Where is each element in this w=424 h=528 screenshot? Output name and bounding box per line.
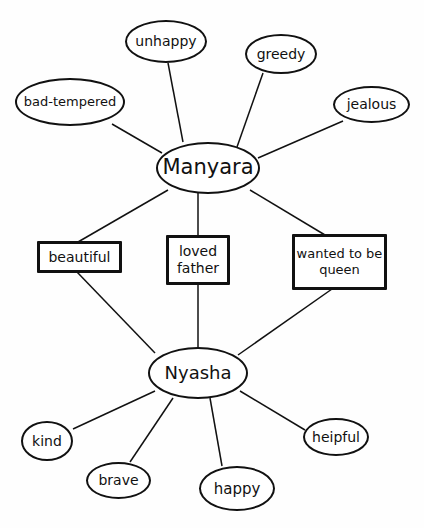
shared-node-beautiful: beautiful [37, 241, 122, 273]
trait-node-heipful: heipful [303, 418, 369, 456]
center-node-manyara: Manyara [156, 142, 260, 194]
double-bubble-map: Manyara Nyasha unhappy greedy bad-temper… [0, 0, 424, 528]
trait-node-brave: brave [86, 462, 151, 499]
trait-node-greedy: greedy [245, 34, 317, 74]
trait-node-jealous: jealous [333, 86, 410, 123]
trait-node-happy: happy [199, 466, 275, 511]
trait-node-bad-tempered: bad-tempered [15, 78, 125, 126]
center-node-nyasha: Nyasha [148, 347, 248, 399]
shared-node-loved-father: loved father [166, 235, 230, 285]
shared-node-wanted-to-be-queen: wanted to be queen [292, 234, 387, 290]
trait-node-unhappy: unhappy [125, 20, 207, 63]
trait-node-kind: kind [21, 421, 73, 461]
